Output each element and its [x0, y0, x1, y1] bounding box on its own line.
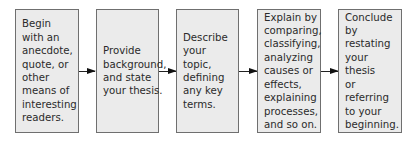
step-3-describe-box: Describe your topic, defining any key te… [176, 9, 239, 133]
arrow-icon-1-to-2 [79, 71, 95, 72]
arrow-icon-4-to-5 [321, 71, 338, 72]
arrow-icon-2-to-3 [159, 71, 176, 72]
step-1-text: Begin with an anecdote, quote, or other … [22, 17, 77, 124]
arrow-icon-3-to-4 [239, 71, 257, 72]
step-5-conclude-box: Conclude by restating your thesis or ref… [338, 9, 402, 133]
step-4-explain-box: Explain by comparing, classifying, analy… [257, 9, 321, 133]
step-3-text: Describe your topic, defining any key te… [183, 31, 234, 111]
step-2-background-box: Provide background, and state your thesi… [96, 9, 159, 133]
step-1-hook-box: Begin with an anecdote, quote, or other … [15, 9, 79, 133]
step-4-text: Explain by comparing, classifying, analy… [264, 11, 322, 132]
step-2-text: Provide background, and state your thesi… [103, 44, 167, 98]
step-5-text: Conclude by restating your thesis or ref… [345, 11, 399, 132]
